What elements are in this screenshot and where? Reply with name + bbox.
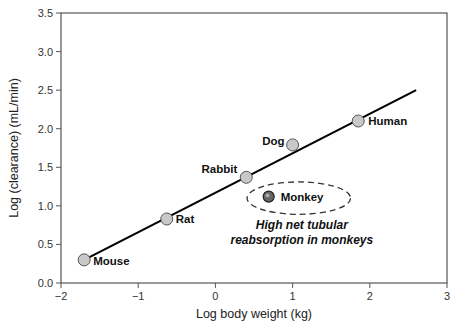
annotations: High net tubularreabsorption in monkeys <box>231 218 374 247</box>
data-marker <box>161 213 173 225</box>
chart: −2−10123 0.00.51.01.52.02.53.03.5 MouseR… <box>0 0 460 335</box>
x-axis-ticks: −2−10123 <box>55 283 450 302</box>
y-tick-label: 2.5 <box>38 84 53 96</box>
x-tick-label: −1 <box>132 290 145 302</box>
data-marker <box>78 254 90 266</box>
y-axis-title: Log (clearance) (mL/min) <box>7 78 21 218</box>
point-label-dog: Dog <box>262 135 284 147</box>
y-tick-label: 2.0 <box>38 123 53 135</box>
annotation-text: High net tubular <box>256 218 349 232</box>
y-tick-label: 1.0 <box>38 200 53 212</box>
point-label-human: Human <box>368 115 407 127</box>
y-axis-ticks: 0.00.51.01.52.02.53.03.5 <box>38 7 61 289</box>
x-tick-label: 1 <box>290 290 296 302</box>
x-axis-title: Log body weight (kg) <box>196 307 312 321</box>
x-tick-label: 2 <box>367 290 373 302</box>
x-tick-label: 0 <box>212 290 218 302</box>
point-label-monkey: Monkey <box>281 191 324 203</box>
y-tick-label: 0.0 <box>38 277 53 289</box>
x-tick-label: −2 <box>55 290 68 302</box>
point-label-rabbit: Rabbit <box>201 163 237 175</box>
y-tick-label: 3.0 <box>38 46 53 58</box>
data-marker <box>352 115 364 127</box>
y-tick-label: 0.5 <box>38 238 53 250</box>
data-marker <box>240 171 252 183</box>
x-tick-label: 3 <box>444 290 450 302</box>
y-tick-label: 1.5 <box>38 161 53 173</box>
outlier-marker-highlight <box>265 193 269 197</box>
data-marker <box>287 139 299 151</box>
y-tick-label: 3.5 <box>38 7 53 19</box>
annotation-text: reabsorption in monkeys <box>231 233 374 247</box>
point-label-mouse: Mouse <box>93 255 129 267</box>
point-label-rat: Rat <box>176 213 195 225</box>
